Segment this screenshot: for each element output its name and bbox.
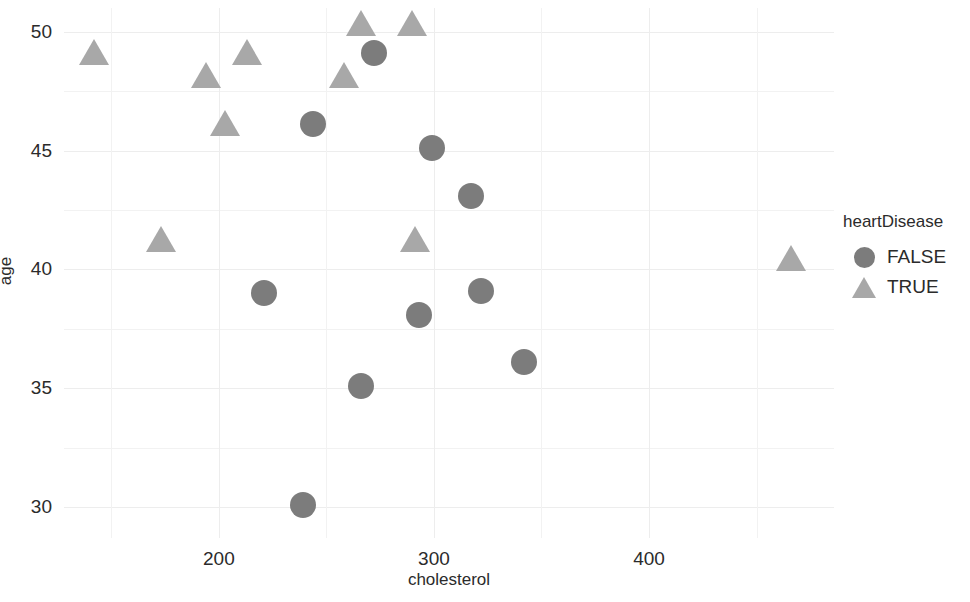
data-point-triangle[interactable]	[146, 226, 176, 252]
data-point-triangle[interactable]	[79, 39, 109, 65]
data-point-triangle[interactable]	[776, 245, 806, 271]
x-tick-label: 300	[418, 548, 450, 570]
data-point-triangle[interactable]	[210, 110, 240, 136]
data-point-circle[interactable]	[511, 349, 537, 375]
legend-circle-icon	[854, 247, 875, 268]
gridline-vertical	[541, 8, 542, 538]
x-tick-label: 200	[203, 548, 235, 570]
y-axis-title: age	[0, 257, 16, 285]
y-tick-label: 30	[31, 496, 52, 518]
legend-triangle-icon	[852, 277, 876, 298]
data-point-triangle[interactable]	[346, 10, 376, 36]
gridline-horizontal	[64, 32, 834, 33]
data-point-circle[interactable]	[458, 183, 484, 209]
x-axis-title: cholesterol	[408, 570, 490, 590]
gridline-horizontal	[64, 269, 834, 270]
data-point-triangle[interactable]	[400, 226, 430, 252]
gridline-vertical	[111, 8, 112, 538]
data-point-triangle[interactable]	[191, 62, 221, 88]
gridline-vertical	[434, 8, 435, 538]
gridline-horizontal	[64, 210, 834, 211]
gridline-horizontal	[64, 151, 834, 152]
gridline-horizontal	[64, 91, 834, 92]
x-tick-label: 400	[633, 548, 665, 570]
data-point-triangle[interactable]	[397, 10, 427, 36]
gridline-vertical	[649, 8, 650, 538]
scatter-chart: 3035404550 200300400 age cholesterol hea…	[0, 0, 970, 602]
data-point-triangle[interactable]	[232, 39, 262, 65]
y-tick-label: 45	[31, 140, 52, 162]
gridline-vertical	[757, 8, 758, 538]
y-tick-label: 50	[31, 21, 52, 43]
gridline-vertical	[326, 8, 327, 538]
legend: heartDisease FALSETRUE	[843, 212, 968, 302]
data-point-circle[interactable]	[468, 278, 494, 304]
gridline-horizontal	[64, 448, 834, 449]
data-point-circle[interactable]	[251, 280, 277, 306]
data-point-triangle[interactable]	[329, 62, 359, 88]
legend-title: heartDisease	[843, 212, 968, 232]
plot-area	[64, 8, 834, 538]
legend-label: FALSE	[887, 246, 946, 268]
legend-item-false[interactable]: FALSE	[849, 242, 968, 272]
legend-item-true[interactable]: TRUE	[849, 272, 968, 302]
data-point-circle[interactable]	[419, 135, 445, 161]
data-point-circle[interactable]	[406, 302, 432, 328]
data-point-circle[interactable]	[348, 373, 374, 399]
legend-items: FALSETRUE	[843, 242, 968, 302]
data-point-circle[interactable]	[290, 492, 316, 518]
data-point-circle[interactable]	[300, 111, 326, 137]
data-point-circle[interactable]	[361, 40, 387, 66]
gridline-horizontal	[64, 507, 834, 508]
legend-label: TRUE	[887, 276, 939, 298]
gridline-horizontal	[64, 388, 834, 389]
y-tick-label: 40	[31, 258, 52, 280]
y-tick-label: 35	[31, 377, 52, 399]
gridline-horizontal	[64, 329, 834, 330]
